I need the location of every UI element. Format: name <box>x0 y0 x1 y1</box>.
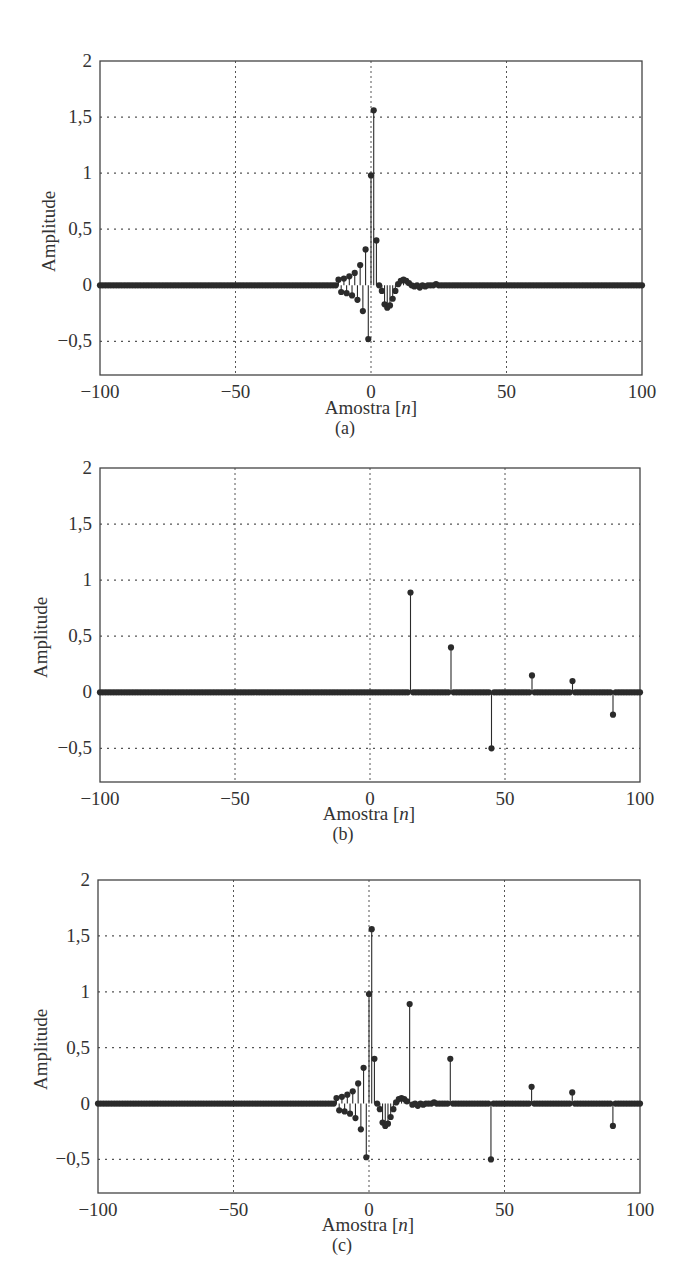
y-tick-label: 1,5 <box>30 926 90 945</box>
figure-c: Amplitude Amostra [n] (c) −100−500501002… <box>0 0 686 1282</box>
caption-c: (c) <box>312 1235 372 1256</box>
plot-area-c <box>0 0 686 1282</box>
x-tick-label: −50 <box>204 1200 264 1219</box>
y-tick-label: −0,5 <box>30 1149 90 1168</box>
y-tick-label: 0,5 <box>30 1038 90 1057</box>
y-tick-label: 2 <box>30 870 90 889</box>
x-tick-label: 0 <box>339 1200 399 1219</box>
y-tick-label: 0 <box>30 1094 90 1113</box>
x-tick-label: 100 <box>610 1200 670 1219</box>
x-tick-label: −100 <box>68 1200 128 1219</box>
x-tick-label: 50 <box>475 1200 535 1219</box>
y-tick-label: 1 <box>30 982 90 1001</box>
